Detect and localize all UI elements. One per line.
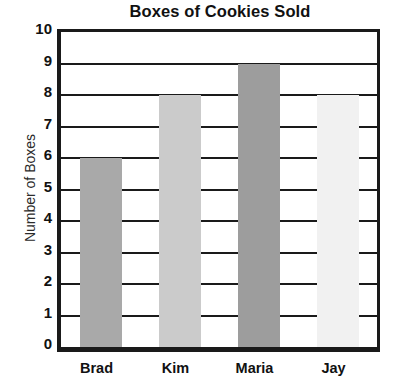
bar xyxy=(159,95,201,347)
y-axis-tick-label: 0 xyxy=(12,336,52,351)
y-axis-tick-label: 9 xyxy=(12,53,52,68)
gridline xyxy=(61,63,377,65)
chart-title: Boxes of Cookies Sold xyxy=(60,2,380,21)
x-axis-tick-label: Kim xyxy=(136,360,215,376)
plot-area xyxy=(57,29,380,352)
y-axis-tick-label: 3 xyxy=(12,242,52,257)
plot-inner xyxy=(61,32,377,347)
y-axis-tick-labels: 109876543210 xyxy=(8,29,52,352)
y-axis-tick-label: 8 xyxy=(12,84,52,99)
x-axis-tick-label: Maria xyxy=(215,360,294,376)
x-axis-tick-label: Brad xyxy=(57,360,136,376)
bar-chart: Boxes of Cookies Sold Number of Boxes 10… xyxy=(0,0,399,390)
y-axis-tick-label: 6 xyxy=(12,147,52,162)
y-axis-tick xyxy=(61,283,70,285)
y-axis-tick xyxy=(61,157,70,159)
bar xyxy=(317,95,359,347)
bar xyxy=(238,64,280,348)
bar xyxy=(80,158,122,347)
y-axis-tick-label: 10 xyxy=(12,21,52,36)
x-axis-tick-label: Jay xyxy=(294,360,373,376)
y-axis-tick xyxy=(61,94,70,96)
y-axis-tick xyxy=(61,315,70,317)
y-axis-tick xyxy=(61,63,70,65)
y-axis-tick-label: 2 xyxy=(12,273,52,288)
y-axis-tick xyxy=(61,220,70,222)
y-axis-tick xyxy=(61,126,70,128)
y-axis-tick xyxy=(61,252,70,254)
y-axis-tick xyxy=(61,189,70,191)
y-axis-tick-label: 5 xyxy=(12,179,52,194)
y-axis-tick-label: 1 xyxy=(12,305,52,320)
y-axis-tick-label: 4 xyxy=(12,210,52,225)
y-axis-tick-label: 7 xyxy=(12,116,52,131)
x-axis-tick-labels: BradKimMariaJay xyxy=(57,360,380,386)
